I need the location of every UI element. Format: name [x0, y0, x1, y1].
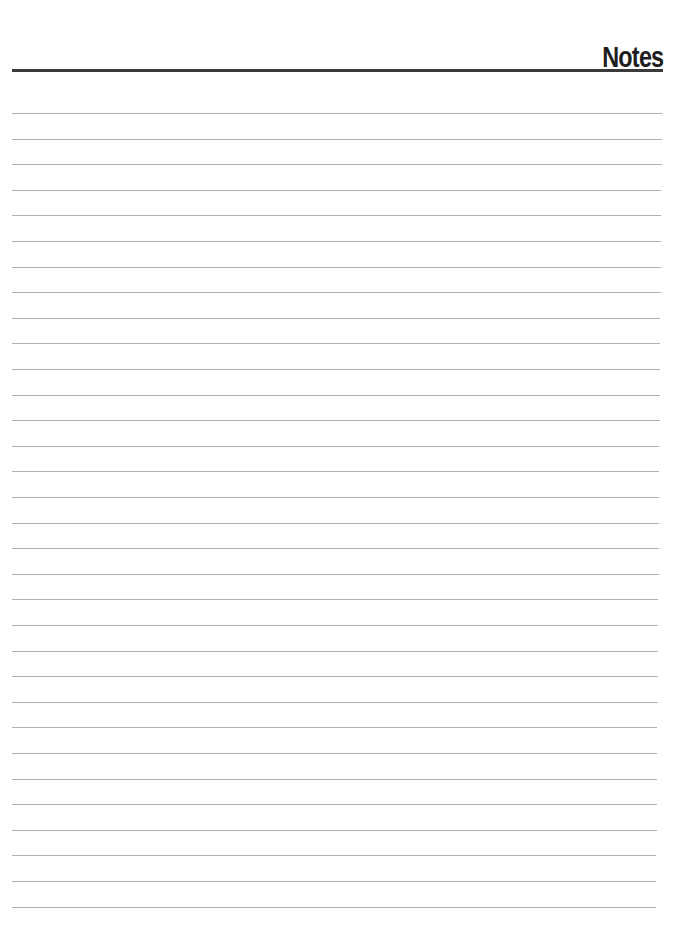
ruled-line — [12, 471, 659, 472]
ruled-lines — [0, 0, 692, 950]
ruled-line — [12, 139, 662, 140]
ruled-line — [12, 446, 659, 447]
ruled-line — [12, 267, 661, 268]
ruled-line — [12, 548, 659, 549]
ruled-line — [12, 753, 657, 754]
ruled-line — [12, 651, 658, 652]
ruled-line — [12, 420, 660, 421]
ruled-line — [12, 574, 659, 575]
ruled-line — [12, 190, 661, 191]
ruled-line — [12, 369, 660, 370]
ruled-line — [12, 702, 658, 703]
ruled-line — [12, 625, 658, 626]
ruled-line — [12, 164, 662, 165]
ruled-line — [12, 830, 657, 831]
ruled-line — [12, 113, 662, 114]
ruled-line — [12, 599, 658, 600]
ruled-line — [12, 804, 657, 805]
ruled-line — [12, 292, 661, 293]
ruled-line — [12, 318, 660, 319]
ruled-line — [12, 523, 659, 524]
ruled-line — [12, 343, 660, 344]
ruled-line — [12, 907, 656, 908]
ruled-line — [12, 855, 656, 856]
ruled-line — [12, 215, 661, 216]
ruled-line — [12, 395, 660, 396]
ruled-line — [12, 881, 656, 882]
ruled-line — [12, 779, 657, 780]
ruled-line — [12, 497, 659, 498]
ruled-line — [12, 676, 658, 677]
ruled-line — [12, 727, 657, 728]
ruled-line — [12, 241, 661, 242]
